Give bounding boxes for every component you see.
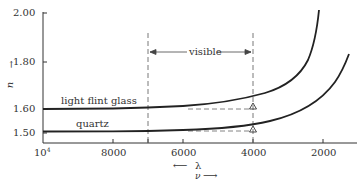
y-tick-1.60: 1.60	[13, 104, 35, 114]
x-tick-6000: 6000	[171, 148, 196, 158]
lambda-label: λ	[195, 161, 201, 171]
x-tick-exponent: 4	[47, 146, 51, 153]
y-tick-2.00: 2.00	[13, 8, 35, 18]
visible-label: visible	[189, 47, 222, 57]
label-quartz: quartz	[76, 119, 109, 129]
y-axis-arrow: →	[7, 61, 16, 69]
y-ticks	[43, 13, 47, 133]
label-light-flint-glass: light flint glass	[61, 96, 137, 106]
lambda-arrow: ⟵	[173, 161, 187, 171]
nu-label: ν	[195, 172, 200, 181]
x-tick-base: 10	[34, 147, 47, 158]
x-ticks	[113, 139, 323, 143]
y-axis-label: n	[5, 82, 15, 88]
x-tick-10e4: 104	[34, 147, 51, 158]
x-tick-8000: 8000	[101, 148, 126, 158]
y-tick-1.80: 1.80	[13, 57, 35, 67]
x-tick-4000: 4000	[241, 148, 266, 158]
y-tick-1.50: 1.50	[13, 128, 35, 138]
x-tick-2000: 2000	[311, 148, 336, 158]
nu-arrow: ⟶	[203, 171, 217, 181]
